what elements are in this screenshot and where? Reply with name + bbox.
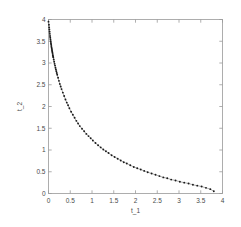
data-point <box>155 174 157 176</box>
y-tick-label: 0.5 <box>36 168 45 175</box>
data-point <box>81 128 83 130</box>
x-tick-label: 1 <box>90 197 94 204</box>
data-point <box>75 120 77 122</box>
x-tick-label: 2 <box>134 197 138 204</box>
data-point <box>53 59 55 61</box>
data-point <box>56 74 58 76</box>
data-point <box>196 185 198 187</box>
data-point <box>50 40 52 42</box>
data-point <box>50 43 52 45</box>
data-point <box>49 37 51 39</box>
data-point <box>48 29 50 31</box>
data-point <box>55 70 57 72</box>
data-point <box>90 137 92 139</box>
x-tick-label: 1.5 <box>109 197 118 204</box>
data-point <box>123 161 125 163</box>
data-point <box>201 186 203 188</box>
x-tick-label: 0.5 <box>66 197 75 204</box>
data-point <box>61 88 63 90</box>
data-point <box>209 188 211 190</box>
data-point <box>126 163 128 165</box>
data-point <box>48 24 50 26</box>
data-point <box>158 175 160 177</box>
data-point <box>95 142 97 144</box>
data-point <box>213 190 215 192</box>
x-tick-label: 3 <box>177 197 181 204</box>
y-tick-label: 3 <box>42 59 46 66</box>
data-point <box>55 69 57 71</box>
data-point <box>88 135 90 137</box>
chart-canvas: 00.511.522.533.54 00.511.522.533.54 t_1 … <box>0 0 241 227</box>
data-point <box>52 56 54 58</box>
data-point <box>183 182 185 184</box>
data-point <box>49 35 51 37</box>
x-axis-label: t_1 <box>131 207 140 215</box>
data-point <box>63 95 65 97</box>
data-point <box>192 184 194 186</box>
data-point <box>65 99 67 101</box>
x-tick-label: 2.5 <box>153 197 162 204</box>
data-point <box>108 152 110 154</box>
y-tick-label: 2 <box>42 103 46 110</box>
data-point <box>50 39 52 41</box>
data-point <box>143 170 145 172</box>
data-point <box>56 72 58 74</box>
data-point <box>85 133 87 135</box>
data-point <box>48 21 50 23</box>
data-point <box>54 65 56 67</box>
data-point <box>205 187 207 189</box>
data-point <box>92 139 94 141</box>
data-point <box>57 77 59 79</box>
data-point <box>117 158 119 160</box>
data-point <box>49 31 51 33</box>
data-point <box>129 164 131 166</box>
x-axis-tick-labels: 00.511.522.533.54 <box>47 197 225 204</box>
data-point <box>111 154 113 156</box>
data-point <box>74 117 76 119</box>
data-point <box>162 176 164 178</box>
data-point <box>188 183 190 185</box>
data-point <box>53 61 55 63</box>
data-point <box>97 144 99 146</box>
data-point <box>62 92 64 94</box>
y-tick-label: 2.5 <box>36 81 45 88</box>
y-tick-label: 0 <box>42 190 46 197</box>
data-point <box>66 102 68 104</box>
data-point <box>114 156 116 158</box>
data-point <box>105 150 107 152</box>
figure-background <box>0 0 241 227</box>
data-point <box>120 159 122 161</box>
data-point <box>55 67 57 69</box>
data-point <box>48 26 50 28</box>
data-point <box>133 166 135 168</box>
data-point <box>179 181 181 183</box>
x-tick-label: 0 <box>47 197 51 204</box>
y-axis-label: t_2 <box>16 102 24 111</box>
data-point <box>83 130 85 132</box>
y-tick-label: 4 <box>42 16 46 23</box>
data-point <box>49 33 51 35</box>
data-point <box>72 114 74 116</box>
data-point <box>70 111 72 113</box>
data-point <box>136 167 138 169</box>
y-tick-label: 1.5 <box>36 125 45 132</box>
data-point <box>67 104 69 106</box>
data-point <box>68 107 70 109</box>
data-point <box>100 146 102 148</box>
data-point <box>166 177 168 179</box>
data-point <box>102 149 104 151</box>
data-point <box>147 171 149 173</box>
data-point <box>151 173 153 175</box>
y-tick-label: 1 <box>42 146 46 153</box>
data-point <box>175 180 177 182</box>
x-tick-label: 4 <box>221 197 225 204</box>
data-point <box>77 123 79 125</box>
chart-figure: 00.511.522.533.54 00.511.522.533.54 t_1 … <box>0 0 241 227</box>
data-point <box>170 179 172 181</box>
data-point <box>58 80 60 82</box>
x-tick-label: 3.5 <box>196 197 205 204</box>
data-point <box>54 63 56 65</box>
y-tick-label: 3.5 <box>36 38 45 45</box>
data-point <box>140 169 142 171</box>
data-point <box>79 125 81 127</box>
